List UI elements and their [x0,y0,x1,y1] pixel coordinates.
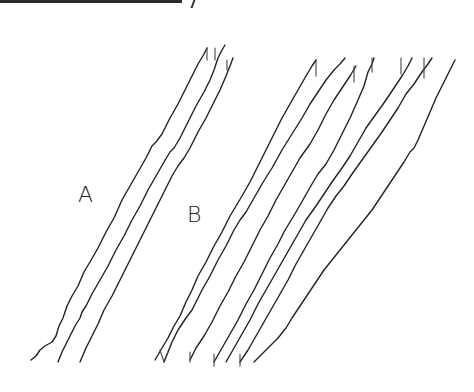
trace-b-3 [190,66,356,360]
trace-b-4 [214,58,374,362]
trace-b-7 [254,60,455,362]
group-a-label: A [78,182,93,207]
trace-b-1 [155,60,316,360]
trace-a-3 [80,58,233,362]
top-border-line [0,0,182,3]
group-a-traces [31,45,233,362]
figure: A B [0,0,474,392]
group-b-label: B [187,202,201,227]
trace-b-5 [226,58,412,362]
traces-canvas [0,0,474,392]
trace-b-6 [240,58,432,362]
